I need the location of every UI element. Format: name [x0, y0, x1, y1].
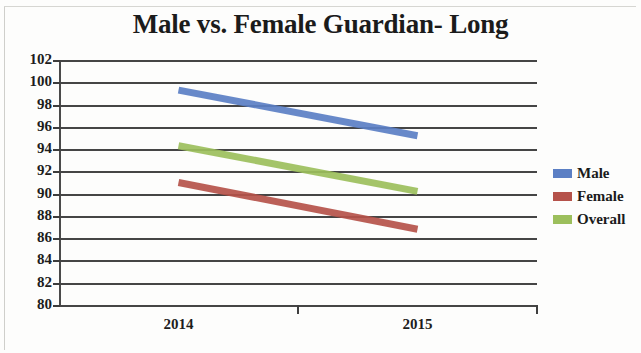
legend-swatch-icon: [553, 192, 572, 201]
gridline: [59, 260, 537, 262]
y-axis-labels: 10210098969492908886848280: [14, 60, 52, 305]
gridline: [59, 216, 537, 218]
legend-label: Overall: [577, 211, 625, 228]
y-axis-label: 84: [18, 251, 52, 268]
x-axis-label: 2014: [139, 316, 219, 333]
page-edge-top: [4, 6, 636, 7]
chart-title: Male vs. Female Guardian- Long: [0, 9, 641, 40]
y-axis-label: 102: [18, 51, 52, 68]
y-axis-tick: [53, 171, 60, 173]
legend-swatch-icon: [553, 169, 572, 178]
chart-figure: Male vs. Female Guardian- Long 102100989…: [0, 0, 641, 353]
x-axis-tick: [536, 305, 538, 314]
y-axis-label: 92: [18, 162, 52, 179]
y-axis-tick: [53, 127, 60, 129]
plot-area: [59, 60, 537, 305]
y-axis-tick: [53, 216, 60, 218]
y-axis-label: 90: [18, 185, 52, 202]
y-axis-tick: [53, 149, 60, 151]
y-axis-label: 100: [18, 73, 52, 90]
y-axis-tick: [53, 194, 60, 196]
y-axis-tick: [53, 283, 60, 285]
page-edge-left: [4, 6, 5, 350]
y-axis-tick: [53, 82, 60, 84]
y-axis-label: 98: [18, 96, 52, 113]
gridline: [59, 127, 537, 129]
y-axis-label: 94: [18, 140, 52, 157]
y-axis-label: 96: [18, 118, 52, 135]
y-axis-label: 86: [18, 229, 52, 246]
chart-legend: MaleFemaleOverall: [553, 162, 639, 231]
legend-swatch-icon: [553, 215, 572, 224]
legend-item-female: Female: [553, 185, 639, 208]
gridline: [59, 171, 537, 173]
gridline: [59, 82, 537, 84]
y-axis-label: 82: [18, 274, 52, 291]
x-axis-label: 2015: [378, 316, 458, 333]
y-axis-tick: [53, 260, 60, 262]
gridline: [59, 105, 537, 107]
gridline: [59, 283, 537, 285]
legend-item-overall: Overall: [553, 208, 639, 231]
y-axis-label: 88: [18, 207, 52, 224]
y-axis-label: 80: [18, 296, 52, 313]
legend-label: Male: [577, 165, 609, 182]
y-axis-tick: [53, 105, 60, 107]
legend-label: Female: [577, 188, 624, 205]
y-axis-tick: [53, 60, 60, 62]
y-axis-tick: [53, 238, 60, 240]
y-axis-tick: [53, 305, 60, 307]
gridline: [59, 60, 537, 62]
legend-item-male: Male: [553, 162, 639, 185]
gridline: [59, 238, 537, 240]
x-axis-tick: [297, 305, 299, 314]
gridline: [59, 149, 537, 151]
gridline: [59, 194, 537, 196]
